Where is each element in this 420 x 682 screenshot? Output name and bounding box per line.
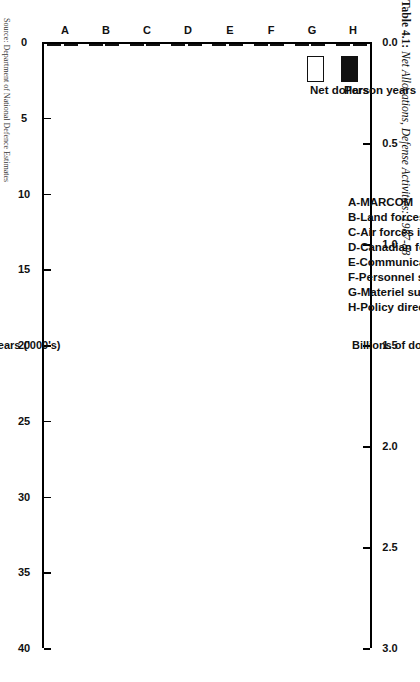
figure-root: Table 4.1: Net Allocations, Defense Acti… (0, 0, 420, 682)
axis-title-dollars: Billions of dollars (Cdn.) (352, 339, 420, 351)
legend-swatch-person-years (341, 56, 358, 82)
key-entry: F-Personnel support (348, 271, 420, 283)
key-entry: H-Policy direction and management (348, 301, 420, 313)
category-label-d: D (180, 24, 196, 36)
key-entry: D-Canadian forces in Europe (348, 241, 420, 253)
axis-tick-label: 2.5 (376, 541, 404, 553)
axis-tick (44, 648, 51, 650)
category-label-a: A (57, 24, 73, 36)
axis-tick (363, 547, 370, 549)
bar-person-years (212, 44, 226, 121)
bar-net-dollars (105, 44, 119, 357)
category-label-f: F (263, 24, 279, 36)
bar-segment (146, 44, 160, 46)
bar-segment (229, 44, 243, 46)
category-label-g: G (304, 24, 320, 36)
bar-person-years (171, 44, 185, 165)
axis-tick-label: 10 (10, 188, 38, 200)
bar-segment (311, 44, 325, 46)
bar-segment (295, 44, 309, 46)
bar-net-dollars (229, 44, 243, 129)
bar-segment (47, 44, 61, 46)
key-entry: E-Communication services (348, 256, 420, 268)
category-label-e: E (222, 24, 238, 36)
category-label-h: H (345, 24, 361, 36)
axis-tick-label: 40 (10, 642, 38, 654)
legend-swatch-net-dollars (307, 56, 324, 82)
bar-segment (130, 44, 144, 46)
key-entry: G-Materiel support (348, 286, 420, 298)
bar-net-dollars (64, 44, 78, 501)
axis-tick-label: 15 (10, 263, 38, 275)
bar-segment (270, 44, 284, 46)
figure-title-text: Net Allocations, Defense Activities: 198… (400, 51, 412, 255)
axis-tick-label: 25 (10, 415, 38, 427)
bar-segment (171, 44, 185, 46)
bar-person-years (254, 44, 268, 432)
bar-segment (254, 44, 268, 46)
bar-person-years (89, 44, 103, 417)
axis-tick (44, 497, 51, 499)
bar-net-dollars (146, 44, 160, 622)
axis-tick-label: 0.0 (376, 36, 404, 48)
category-label-b: B (98, 24, 114, 36)
legend-label: Net dollars (310, 84, 369, 96)
axis-tick-label: 35 (10, 566, 38, 578)
bar-segment (89, 44, 103, 46)
key-entry: C-Air forces in Canada (348, 226, 420, 238)
axis-tick-label: 3.0 (376, 642, 404, 654)
axis-tick-label: 30 (10, 491, 38, 503)
axis-tick (363, 648, 370, 650)
bar-segment (212, 44, 226, 46)
plot-area: 0.00.51.01.52.02.53.0 0510152025303540 B… (42, 42, 372, 648)
axis-tick-label: 0 (10, 36, 38, 48)
bar-segment (64, 44, 78, 46)
axis-tick (44, 421, 51, 423)
bar-segment (188, 44, 202, 46)
axis-tick-label: 2.0 (376, 440, 404, 452)
key-entry: B-Land forces in Canada (348, 211, 420, 223)
bar-net-dollars (270, 44, 284, 361)
axis-tick (44, 572, 51, 574)
axis-tick (363, 446, 370, 448)
bar-person-years (47, 44, 61, 333)
bar-net-dollars (188, 44, 202, 246)
axis-tick-label: 5 (10, 112, 38, 124)
bar-segment (353, 44, 367, 46)
category-label-c: C (139, 24, 155, 36)
key-entry: A-MARCOM (348, 196, 413, 208)
axis-tick-label: 0.5 (376, 137, 404, 149)
bar-segment (336, 44, 350, 46)
bar-segment (105, 44, 119, 46)
bar-person-years (130, 44, 144, 518)
